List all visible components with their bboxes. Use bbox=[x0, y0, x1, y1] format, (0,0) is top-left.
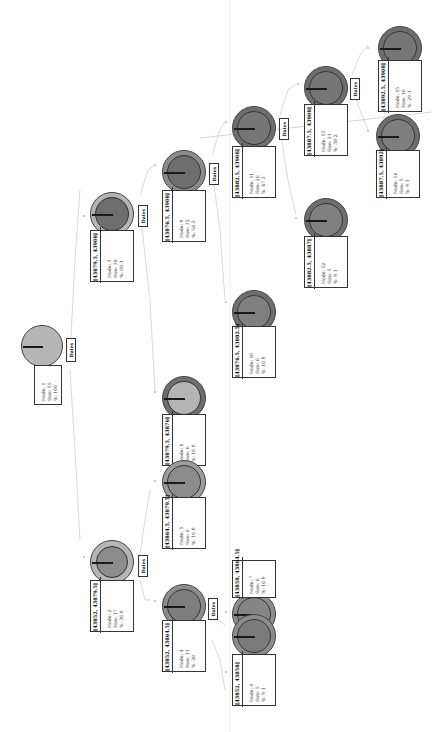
node-range-label: [43858, 43864.5] bbox=[233, 557, 243, 599]
needle-icon bbox=[378, 136, 399, 138]
edge-13-15 bbox=[352, 45, 368, 75]
needle-icon bbox=[164, 398, 185, 400]
node-range-label: [43852, 43864.5] bbox=[163, 617, 173, 673]
needle-icon bbox=[234, 128, 255, 130]
node-range-label: [43876.5, 43882.5] bbox=[233, 323, 243, 379]
node-range-label: [43882.5, 43908] bbox=[233, 143, 243, 199]
edge-3-8 bbox=[140, 210, 155, 392]
edge-9-11 bbox=[212, 122, 225, 155]
needle-icon bbox=[164, 172, 185, 174]
node-range-label: [43852, 43879.5] bbox=[91, 577, 101, 633]
node-pct-label: %: 10.9 bbox=[191, 444, 197, 462]
split-label-node-13: Dates bbox=[350, 78, 360, 100]
node-range-label: [43882.5, 43887] bbox=[305, 233, 315, 289]
split-label-node-2: Dates bbox=[138, 555, 148, 577]
node-info-box: [43876.5, 43882.5] Node: 10 Size: 6 %: 1… bbox=[232, 326, 276, 378]
edge-1-2 bbox=[70, 370, 80, 540]
edge-4-7 bbox=[212, 620, 225, 625]
node-info-box: [43887.5, 43908] Node: 13 Size: 21 %: 38… bbox=[304, 104, 348, 156]
node-range-label: [43879.5, 43876] bbox=[163, 411, 173, 467]
edge-2-4 bbox=[140, 580, 150, 600]
needle-icon bbox=[380, 48, 401, 50]
node-info-box: [43852, 43864.5] Node: 4 Size: 11 %: 20 bbox=[162, 620, 206, 672]
node-info-box: [43887.5, 43892] Node: 14 Size: 5 %: 9.1 bbox=[376, 150, 420, 198]
edge-11-12 bbox=[280, 130, 296, 215]
needle-icon bbox=[92, 214, 113, 216]
node-pct-label: %: 10.9 bbox=[191, 527, 197, 545]
node-info-box: [43879.5, 43876] Node: 8 Size: 6 %: 10.9 bbox=[162, 414, 206, 466]
node-info-box: [43864.5, 43879.5] Node: 5 Size: 6 %: 10… bbox=[162, 497, 206, 549]
needle-icon bbox=[306, 88, 327, 90]
node-range-label: [43852, 43858] bbox=[233, 651, 243, 707]
node-pct-label: %: 9.1 bbox=[405, 173, 411, 194]
node-info-box: [43882.5, 43887] Node: 12 Size: 5 %: 9.1 bbox=[304, 236, 348, 288]
node-info-box: [43876.5, 43908] Node: 9 Size: 32 %: 58.… bbox=[162, 190, 206, 242]
node-info-box: [43892.5, 43908] Node: 15 Size: 16 %: 29… bbox=[378, 60, 422, 112]
node-pct-label: %: 10.9 bbox=[261, 576, 267, 594]
needle-icon bbox=[164, 482, 185, 484]
node-pct-label: %: 10.9 bbox=[261, 353, 267, 374]
node-info-box: [43852, 43858] Node: 6 Size: 5 %: 9.1 bbox=[232, 654, 276, 706]
tree-edges bbox=[0, 0, 432, 732]
edge-9-10 bbox=[212, 170, 225, 300]
edge-11-13 bbox=[280, 84, 296, 115]
node-pct-label: %: 47.3 bbox=[261, 173, 267, 194]
node-info-box: [43852, 43879.5] Node: 2 Size: 17 %: 30.… bbox=[90, 580, 134, 632]
needle-icon bbox=[306, 220, 327, 222]
node-range-label: [43879.5, 43908] bbox=[91, 227, 101, 283]
node-range-label: [43876.5, 43908] bbox=[163, 187, 173, 243]
node-pct-label: %: 29.1 bbox=[407, 87, 413, 108]
split-label-node-1: Dates bbox=[66, 338, 76, 362]
edge-2-5 bbox=[140, 490, 150, 555]
node-pct-label: %: 69.1 bbox=[119, 259, 125, 278]
node-info-box: [43882.5, 43908] Node: 11 Size: 26 %: 47… bbox=[232, 146, 276, 198]
decision-tree-canvas: Node: 1 Size: 55 %: 100 Dates [43852, 43… bbox=[0, 0, 432, 732]
needle-icon bbox=[234, 636, 255, 638]
node-pct-label: %: 20 bbox=[191, 649, 197, 668]
node-info-box: [43879.5, 43908] Node: 3 Size: 38 %: 69.… bbox=[90, 230, 134, 282]
node-range-label: [43892.5, 43908] bbox=[379, 57, 389, 113]
needle-icon bbox=[164, 606, 185, 608]
pie-chart-node-1 bbox=[21, 325, 63, 367]
edge-4-6 bbox=[212, 640, 225, 690]
needle-icon bbox=[23, 346, 43, 348]
node-info-box: [43858, 43864.5] Node: 7 Size: 6 %: 10.9 bbox=[232, 560, 276, 598]
node-info-box: Node: 1 Size: 55 %: 100 bbox=[34, 365, 62, 405]
node-pct-label: %: 100 bbox=[53, 382, 59, 401]
needle-icon bbox=[234, 312, 255, 314]
node-range-label: [43864.5, 43879.5] bbox=[163, 494, 173, 550]
node-pct-label: %: 30.9 bbox=[119, 609, 125, 628]
edge-1-3 bbox=[70, 190, 80, 355]
split-label-node-4: Dates bbox=[208, 598, 218, 620]
node-pct-label: %: 38.2 bbox=[333, 131, 339, 152]
split-label-node-9: Dates bbox=[209, 163, 219, 185]
node-pct-label: %: 9.1 bbox=[333, 263, 339, 284]
split-label-node-3: Dates bbox=[138, 205, 148, 227]
edge-3-9 bbox=[140, 165, 155, 195]
needle-icon bbox=[92, 562, 113, 564]
node-range-label: [43887.5, 43908] bbox=[305, 101, 315, 157]
node-range-label: [43887.5, 43892] bbox=[377, 147, 387, 199]
split-label-node-11: Dates bbox=[279, 118, 289, 140]
node-pct-label: %: 9.1 bbox=[261, 684, 267, 702]
node-pct-label: %: 58.2 bbox=[191, 219, 197, 238]
